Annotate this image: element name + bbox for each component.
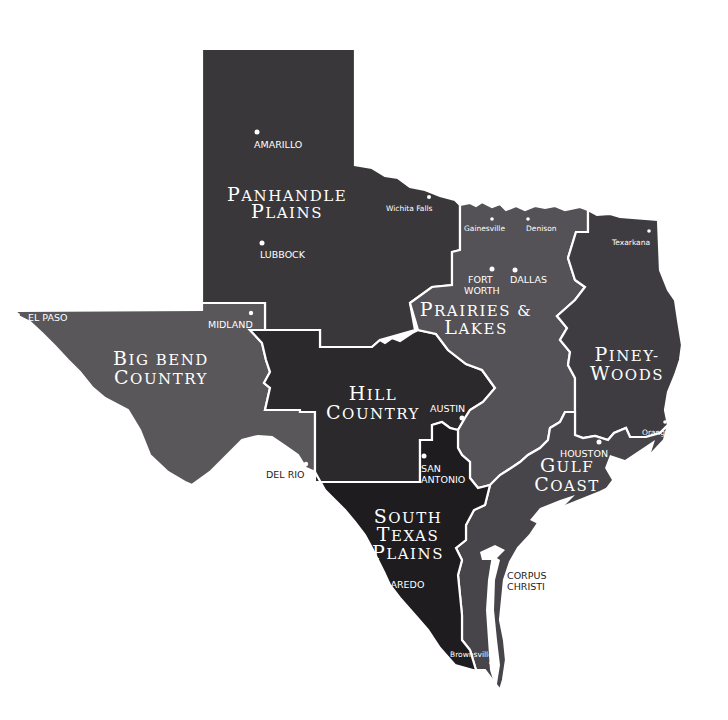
city-label: Orange: [642, 428, 670, 437]
city-label: SAN: [421, 463, 441, 474]
city-label: AUSTIN: [430, 403, 465, 414]
city-label-line2: CHRISTI: [507, 581, 545, 592]
city-dot-icon: [427, 195, 431, 199]
city-dot-icon: [381, 572, 386, 577]
region-label-prairies-lakes-2: LAKES: [444, 316, 507, 338]
city-label: LUBBOCK: [260, 249, 306, 260]
region-label-hill-country-2: COUNTRY: [326, 401, 420, 423]
region-label-piney-woods-2: WOODS: [590, 362, 664, 384]
city-dot-icon: [490, 217, 494, 221]
city-label: Brownsville: [450, 650, 493, 659]
region-label-hill-country: HILL: [349, 382, 397, 404]
city-dot-icon: [490, 565, 494, 569]
city-dot-icon: [490, 267, 495, 272]
region-label-gulf-coast-2: COAST: [534, 473, 599, 495]
city-dot-icon: [255, 130, 260, 135]
city-dot-icon: [304, 462, 308, 466]
city-del-rio[interactable]: DEL RIO: [266, 462, 308, 480]
city-dot-icon: [249, 311, 253, 315]
city-dot-icon: [16, 313, 20, 317]
region-label-big-bend-2: COUNTRY: [114, 366, 208, 388]
texas-regions-map: PANHANDLE PLAINS BIG BEND COUNTRY HILL C…: [0, 0, 728, 720]
city-label-line2: ANTONIO: [421, 474, 465, 485]
city-label: HOUSTON: [560, 448, 608, 459]
city-dot-icon: [460, 416, 465, 421]
city-label: EL PASO: [28, 312, 67, 323]
region-label-panhandle-plains-2: PLAINS: [251, 200, 323, 222]
city-label: Gainesville: [464, 224, 505, 233]
city-dot-icon: [489, 661, 493, 665]
city-label: Wichita Falls: [386, 204, 433, 213]
city-label: Texarkana: [611, 238, 650, 247]
region-label-prairies-lakes: PRAIRIES &: [420, 298, 532, 320]
city-label: CORPUS: [507, 570, 546, 581]
city-dot-icon: [513, 268, 518, 273]
city-dot-icon: [597, 440, 602, 445]
city-label: DALLAS: [510, 274, 547, 285]
city-label: AMARILLO: [254, 139, 302, 150]
city-dot-icon: [663, 420, 667, 424]
city-label: LAREDO: [385, 579, 424, 590]
city-label: DEL RIO: [266, 469, 305, 480]
region-label-panhandle-plains: PANHANDLE: [227, 183, 347, 205]
region-label-south-texas-3: PLAINS: [372, 541, 444, 563]
city-dot-icon: [526, 217, 530, 221]
city-dot-icon: [260, 241, 265, 246]
city-dot-icon: [647, 229, 651, 233]
city-label: Denison: [526, 224, 557, 233]
city-label-line2: WORTH: [464, 285, 500, 296]
city-label: FORT: [468, 274, 493, 285]
city-label: MIDLAND: [208, 319, 253, 330]
city-dot-icon: [422, 454, 427, 459]
